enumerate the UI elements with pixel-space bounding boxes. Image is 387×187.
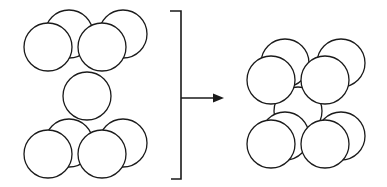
sphere-bottom-front-right <box>78 130 126 178</box>
bracket <box>170 11 181 179</box>
sphere-top-front-left <box>24 23 72 71</box>
bracket-arrow-connector <box>170 11 224 179</box>
sphere-middle <box>63 72 111 120</box>
sphere-top-front-left <box>247 56 295 104</box>
sphere-bottom-front-left <box>247 120 295 168</box>
transformation-diagram <box>0 0 387 187</box>
sphere-bottom-front-right <box>301 120 349 168</box>
left-sphere-group <box>24 10 147 178</box>
sphere-top-front-right <box>78 23 126 71</box>
right-sphere-group <box>247 39 365 168</box>
sphere-top-front-right <box>301 56 349 104</box>
arrow-head-icon <box>213 94 224 103</box>
sphere-bottom-front-left <box>24 130 72 178</box>
